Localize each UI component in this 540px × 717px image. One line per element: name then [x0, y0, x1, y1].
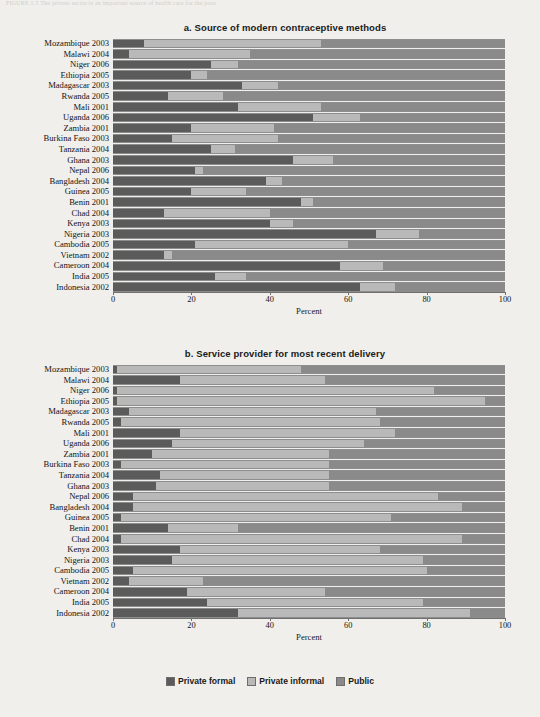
- bar-segment-formal: [113, 535, 121, 543]
- bar-segment-informal: [376, 230, 419, 238]
- legend-swatch-formal: [166, 677, 175, 686]
- bar-segment-informal: [340, 262, 383, 270]
- stacked-bar: [113, 587, 505, 597]
- chart-row: Ghana 2003: [0, 155, 540, 166]
- row-label: Rwanda 2005: [0, 91, 113, 102]
- stacked-bar: [113, 261, 505, 271]
- bar-segment-formal: [113, 230, 376, 238]
- stacked-bar: [113, 282, 505, 292]
- bar-segment-public: [321, 40, 505, 48]
- stacked-bar: [113, 534, 505, 544]
- row-label: Burkina Faso 2003: [0, 133, 113, 144]
- bar-segment-formal: [113, 376, 180, 384]
- bar-segment-informal: [168, 92, 223, 100]
- chart-row: Bangladesh 2004: [0, 502, 540, 513]
- bar-segment-informal: [164, 209, 270, 217]
- chart-row: Cameroon 2004: [0, 586, 540, 597]
- bar-segment-formal: [113, 503, 133, 511]
- bar-segment-public: [238, 61, 505, 69]
- stacked-bar: [113, 502, 505, 512]
- bar-segment-public: [325, 376, 505, 384]
- stacked-bar: [113, 113, 505, 123]
- bar-segment-formal: [113, 408, 129, 416]
- bar-segment-informal: [211, 61, 238, 69]
- bar-segment-informal: [242, 82, 277, 90]
- bar-segment-formal: [113, 177, 266, 185]
- bar-segment-public: [246, 188, 505, 196]
- stacked-bar: [113, 70, 505, 80]
- legend-label: Private formal: [178, 676, 235, 686]
- bar-segment-public: [321, 103, 505, 111]
- chart-row: India 2005: [0, 271, 540, 282]
- chart-row: Nigeria 2003: [0, 555, 540, 566]
- stacked-bar: [113, 608, 505, 618]
- stacked-bar: [113, 272, 505, 282]
- stacked-bar: [113, 208, 505, 218]
- stacked-bar: [113, 39, 505, 49]
- stacked-bar: [113, 492, 505, 502]
- chart-panel-b: b. Service provider for most recent deli…: [0, 348, 540, 642]
- row-label: Mali 2001: [0, 428, 113, 439]
- chart-row: Mali 2001: [0, 428, 540, 439]
- stacked-bar: [113, 49, 505, 59]
- row-label: Cambodia 2005: [0, 239, 113, 250]
- row-label: Cameroon 2004: [0, 260, 113, 271]
- axis-tick-label: 80: [422, 621, 430, 630]
- row-label: Ghana 2003: [0, 481, 113, 492]
- row-label: Chad 2004: [0, 208, 113, 219]
- bar-segment-public: [423, 599, 505, 607]
- row-label: Madagascar 2003: [0, 406, 113, 417]
- bar-segment-informal: [156, 482, 328, 490]
- bar-segment-formal: [113, 251, 164, 259]
- stacked-bar: [113, 240, 505, 250]
- row-label: Tanzania 2004: [0, 470, 113, 481]
- chart-row: Madagascar 2003: [0, 406, 540, 417]
- chart-row: Uganda 2006: [0, 438, 540, 449]
- bar-segment-informal: [121, 535, 462, 543]
- bar-segment-informal: [133, 567, 427, 575]
- bar-segment-public: [380, 418, 505, 426]
- figure-caption: FIGURE 1.5 The private sector is an impo…: [6, 0, 534, 10]
- stacked-bar: [113, 365, 505, 375]
- bar-segment-informal: [160, 471, 329, 479]
- axis-tick-label: 60: [344, 621, 352, 630]
- bar-segment-public: [246, 273, 505, 281]
- chart-a-axis: 020406080100: [113, 292, 505, 308]
- bar-segment-public: [203, 577, 505, 585]
- chart-row: Benin 2001: [0, 197, 540, 208]
- chart-row: Uganda 2006: [0, 112, 540, 123]
- chart-row: Tanzania 2004: [0, 470, 540, 481]
- stacked-bar: [113, 197, 505, 207]
- chart-row: Ghana 2003: [0, 481, 540, 492]
- row-label: Madagascar 2003: [0, 80, 113, 91]
- bar-segment-formal: [113, 92, 168, 100]
- bar-segment-formal: [113, 103, 238, 111]
- bar-segment-public: [423, 556, 505, 564]
- row-label: Nigeria 2003: [0, 555, 113, 566]
- bar-segment-public: [470, 609, 505, 617]
- bar-segment-public: [485, 397, 505, 405]
- bar-segment-informal: [187, 588, 324, 596]
- bar-segment-formal: [113, 124, 191, 132]
- bar-segment-public: [223, 92, 505, 100]
- bar-segment-informal: [211, 145, 235, 153]
- chart-row: Chad 2004: [0, 534, 540, 545]
- row-label: Ethiopia 2005: [0, 396, 113, 407]
- stacked-bar: [113, 439, 505, 449]
- stacked-bar: [113, 523, 505, 533]
- row-label: Tanzania 2004: [0, 144, 113, 155]
- bar-segment-public: [383, 262, 505, 270]
- bar-segment-formal: [113, 514, 121, 522]
- bar-segment-public: [348, 241, 505, 249]
- chart-row: Guinea 2005: [0, 186, 540, 197]
- stacked-bar: [113, 155, 505, 165]
- chart-a-title: a. Source of modern contraceptive method…: [0, 22, 540, 33]
- bar-segment-public: [207, 71, 505, 79]
- bar-segment-informal: [215, 273, 246, 281]
- chart-row: Mozambique 2003: [0, 364, 540, 375]
- bar-segment-public: [329, 482, 505, 490]
- bar-segment-formal: [113, 471, 160, 479]
- bar-segment-public: [395, 429, 505, 437]
- bar-segment-informal: [195, 167, 203, 175]
- bar-segment-formal: [113, 556, 172, 564]
